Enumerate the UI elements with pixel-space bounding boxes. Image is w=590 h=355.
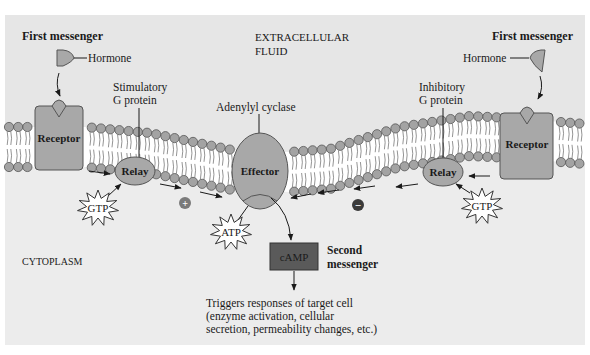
right-receptor: Receptor: [500, 107, 553, 179]
left-receptor: Receptor: [35, 100, 83, 170]
response-text-line-1: Triggers responses of target cell: [206, 297, 353, 310]
left-relay-g-protein: Relay: [115, 157, 155, 185]
svg-text:Relay: Relay: [430, 166, 457, 178]
svg-text:ATP: ATP: [221, 226, 241, 238]
right-hormone-label: Hormone: [463, 52, 506, 64]
svg-text:Relay: Relay: [122, 165, 149, 177]
svg-text:+: +: [182, 198, 188, 209]
extracellular-fluid-label-2: FLUID: [255, 45, 287, 57]
left-first-messenger-label: First messenger: [22, 29, 104, 43]
stimulatory-g-protein-label: Stimulatory: [113, 81, 168, 94]
inhibition-minus-icon: −: [352, 199, 364, 211]
stimulation-plus-icon: +: [179, 197, 191, 209]
svg-text:Effector: Effector: [241, 165, 280, 177]
svg-text:Receptor: Receptor: [506, 138, 549, 150]
svg-text:GTP: GTP: [472, 200, 493, 212]
svg-text:GTP: GTP: [88, 202, 109, 214]
inhibitory-g-protein-label-2: G protein: [419, 94, 463, 107]
adenylyl-cyclase-label: Adenylyl cyclase: [216, 101, 296, 114]
left-hormone-label: Hormone: [88, 52, 131, 64]
second-messenger-label: Second: [327, 244, 363, 256]
response-text-line-2: (enzyme activation, cellular: [206, 310, 334, 323]
diagram-canvas: EXTRACELLULAR FLUID CYTOPLASM First mess…: [0, 0, 590, 355]
svg-text:Receptor: Receptor: [38, 132, 81, 144]
camp-second-messenger-box: cAMP: [270, 243, 318, 270]
stimulatory-g-protein-label-2: G protein: [113, 94, 157, 107]
extracellular-fluid-label: EXTRACELLULAR: [255, 31, 350, 43]
inhibitory-g-protein-label: Inhibitory: [419, 81, 465, 94]
svg-text:cAMP: cAMP: [280, 251, 309, 263]
second-messenger-label-2: messenger: [327, 258, 378, 271]
right-first-messenger-label: First messenger: [492, 29, 574, 43]
cytoplasm-label: CYTOPLASM: [22, 256, 82, 267]
right-relay-g-protein: Relay: [423, 158, 463, 186]
effector-adenylyl-cyclase: Effector: [232, 133, 288, 209]
svg-text:−: −: [355, 199, 361, 211]
response-text-line-3: secretion, permeability changes, etc.): [206, 323, 377, 336]
